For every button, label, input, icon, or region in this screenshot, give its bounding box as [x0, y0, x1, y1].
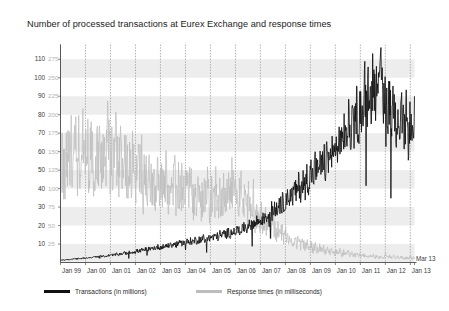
x-axis-tick-label: Jan 02	[137, 267, 156, 274]
horizontal-band	[61, 59, 415, 77]
y-axis-left-tick-label: 50	[38, 166, 46, 173]
x-axis-tick-label: Jan 10	[337, 267, 356, 274]
legend-item-transactions: Transactions (in millions)	[44, 288, 147, 295]
y-axis-right-tick-label: 175	[48, 129, 59, 136]
y-axis-left-ticks: 102030405060708090100110	[34, 55, 45, 247]
legend-label-response-times: Response times (in milliseconds)	[227, 288, 322, 295]
plot-area: 1020304050607080901001102550751001251501…	[0, 0, 449, 311]
x-axis-tick-label: Jan 01	[112, 267, 131, 274]
y-axis-left-tick-label: 40	[38, 185, 46, 192]
y-axis-left-tick-label: 90	[38, 92, 46, 99]
y-axis-right-tick-label: 100	[48, 185, 59, 192]
y-axis-right-ticks: 255075100125150175200225250275	[48, 55, 59, 247]
legend-item-response-times: Response times (in milliseconds)	[196, 288, 322, 295]
y-axis-left-tick-label: 30	[38, 203, 46, 210]
y-axis-right-tick-label: 25	[48, 240, 55, 247]
legend-swatch-response-times-icon	[196, 290, 222, 292]
y-axis-left-tick-label: 60	[38, 148, 46, 155]
x-axis-tick-label: Jan 12	[387, 267, 406, 274]
x-axis-tick-label: Jan 09	[312, 267, 331, 274]
y-axis-left-tick-label: 20	[38, 222, 46, 229]
x-axis-tick-label: Jan 08	[287, 267, 306, 274]
y-axis-right-tick-label: 125	[48, 166, 59, 173]
x-axis-tick-label: Jan 06	[237, 267, 256, 274]
y-axis-right-tick-label: 225	[48, 92, 59, 99]
y-axis-left-tick-label: 80	[38, 111, 46, 118]
x-axis-tick-label: Jan 07	[262, 267, 281, 274]
x-axis-tick-label: Jan 11	[362, 267, 381, 274]
y-axis-right-tick-label: 275	[48, 55, 59, 62]
x-axis-ticks: Jan 99Jan 00Jan 01Jan 02Jan 03Jan 04Jan …	[61, 263, 432, 274]
horizontal-band	[61, 207, 415, 225]
legend-swatch-transactions-icon	[44, 290, 70, 293]
x-axis-tick-label: Jan 99	[62, 267, 81, 274]
chart-figure: Number of processed transactions at Eure…	[0, 0, 449, 311]
y-axis-left-tick-label: 100	[34, 74, 45, 81]
y-axis-left-tick-label: 10	[38, 240, 46, 247]
x-axis-tick-label: Jan 13	[412, 267, 431, 274]
y-axis-left-tick-label: 110	[35, 55, 46, 62]
y-axis-right-tick-label: 200	[48, 111, 59, 118]
y-axis-right-tick-label: 150	[48, 148, 59, 155]
legend-label-transactions: Transactions (in millions)	[75, 288, 147, 295]
x-axis-tick-label: Jan 03	[162, 267, 181, 274]
x-axis-tick-label: Jan 04	[187, 267, 206, 274]
y-axis-left-tick-label: 70	[38, 129, 46, 136]
x-axis-tick-label: Jan 05	[212, 267, 231, 274]
chart-legend: Transactions (in millions) Response time…	[0, 288, 449, 306]
chart-plot-svg: 1020304050607080901001102550751001251501…	[0, 0, 449, 311]
x-axis-end-label: Mar 13	[416, 255, 436, 262]
x-axis-tick-label: Jan 00	[87, 267, 106, 274]
y-axis-right-tick-label: 50	[48, 222, 55, 229]
y-axis-right-tick-label: 250	[48, 74, 59, 81]
horizontal-band	[61, 244, 415, 262]
y-axis-right-tick-label: 75	[48, 203, 55, 210]
